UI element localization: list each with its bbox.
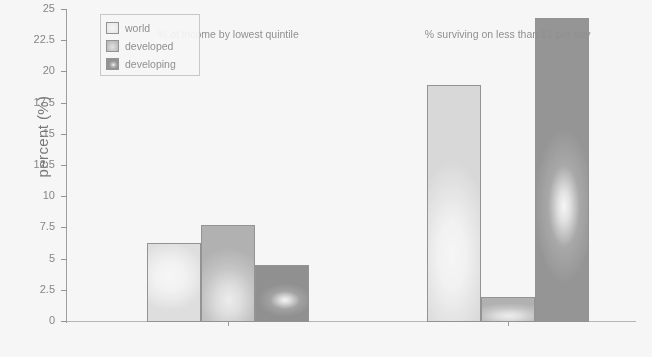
y-tick: 25 [61,9,67,10]
y-tick: 0 [61,321,67,322]
bar-chart: percent (%) 02.557.51012.51517.52022.525… [0,0,652,357]
x-tick [508,321,509,326]
bar-developing-group1 [255,265,309,322]
legend-item-developed: developed [106,37,194,55]
legend-item-developing: developing [106,55,194,73]
bar-world-group2 [427,85,481,322]
y-tick-label: 22.5 [34,33,55,45]
legend-label-world: world [125,22,150,34]
bar-developed-group1 [201,225,255,322]
y-tick-label: 15 [43,127,55,139]
bar-developing-group2 [535,18,589,323]
y-tick-label: 7.5 [40,220,55,232]
bar-world-group1 [147,243,201,322]
y-tick: 7.5 [61,227,67,228]
y-tick: 17.5 [61,103,67,104]
y-tick-label: 5 [49,252,55,264]
y-tick: 10 [61,196,67,197]
legend-swatch-developing-icon [106,58,119,70]
y-tick-label: 20 [43,64,55,76]
y-tick-label: 25 [43,2,55,14]
y-tick: 12.5 [61,165,67,166]
y-tick: 15 [61,134,67,135]
y-tick: 2.5 [61,290,67,291]
legend-item-world: world [106,19,194,37]
y-tick-label: 12.5 [34,158,55,170]
y-tick-label: 0 [49,314,55,326]
y-tick: 20 [61,71,67,72]
legend-label-developed: developed [125,40,173,52]
y-tick-label: 10 [43,189,55,201]
legend-swatch-world-icon [106,22,119,34]
y-tick: 5 [61,259,67,260]
bar-developed-group2 [481,297,535,322]
legend-label-developing: developing [125,58,176,70]
x-tick [228,321,229,326]
legend: world developed developing [100,14,200,76]
legend-swatch-developed-icon [106,40,119,52]
y-tick-label: 17.5 [34,96,55,108]
y-tick: 22.5 [61,40,67,41]
x-tick-label: % surviving on less than $1 per day [393,28,623,40]
y-axis-line [66,10,67,323]
y-tick-label: 2.5 [40,283,55,295]
